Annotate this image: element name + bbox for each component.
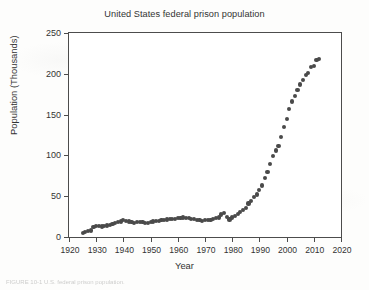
data-point xyxy=(265,170,269,174)
data-point xyxy=(271,154,275,158)
x-axis-tick: 1940 xyxy=(123,237,124,242)
figure-page: United States federal prison population … xyxy=(0,0,369,290)
plot-frame: 0501001502002501920193019401950196019701… xyxy=(68,32,342,238)
data-point xyxy=(257,188,261,192)
x-axis-tick-label: 2020 xyxy=(332,245,351,255)
figure-caption: FIGURE 10-1 U.S. federal prison populati… xyxy=(6,279,256,285)
y-axis-tick: 150 xyxy=(64,115,69,116)
data-point xyxy=(287,107,291,111)
x-axis-tick: 1970 xyxy=(205,237,206,242)
y-axis-tick: 250 xyxy=(64,33,69,34)
chart-title: United States federal prison population xyxy=(0,9,369,19)
x-axis-tick: 1960 xyxy=(178,237,179,242)
x-axis-tick: 2010 xyxy=(314,237,315,242)
data-point xyxy=(301,78,305,82)
y-axis-label: Population (Thousands) xyxy=(8,35,19,135)
x-axis-tick-label: 1960 xyxy=(169,245,188,255)
x-axis-tick-label: 2000 xyxy=(278,245,297,255)
y-axis-tick-label: 0 xyxy=(56,232,61,242)
x-axis-tick-label: 1930 xyxy=(88,245,107,255)
x-axis-tick-label: 1940 xyxy=(115,245,134,255)
data-point xyxy=(293,94,297,98)
x-axis-tick-label: 2010 xyxy=(305,245,324,255)
x-axis-tick: 1980 xyxy=(232,237,233,242)
data-point xyxy=(276,144,280,148)
data-point xyxy=(312,64,316,68)
x-axis-tick: 2020 xyxy=(341,237,342,242)
x-axis-label: Year xyxy=(0,260,369,271)
y-axis-tick-label: 250 xyxy=(46,28,61,38)
x-axis-tick-label: 1920 xyxy=(60,245,79,255)
data-point xyxy=(317,57,321,61)
y-axis-tick-label: 150 xyxy=(46,110,61,120)
y-axis-tick-label: 200 xyxy=(46,69,61,79)
data-point xyxy=(274,148,278,152)
x-axis-tick-label: 1950 xyxy=(142,245,161,255)
data-point xyxy=(295,88,299,92)
plot-area xyxy=(69,33,341,237)
x-axis-tick: 1950 xyxy=(151,237,152,242)
data-point xyxy=(290,99,294,103)
data-point xyxy=(249,199,253,203)
data-point xyxy=(268,162,272,166)
y-axis-tick-label: 100 xyxy=(46,150,61,160)
x-axis-tick: 2000 xyxy=(287,237,288,242)
x-axis-tick: 1930 xyxy=(96,237,97,242)
data-point xyxy=(282,125,286,129)
y-axis-tick: 100 xyxy=(64,155,69,156)
data-point xyxy=(260,183,264,187)
y-axis-tick-label: 50 xyxy=(51,191,61,201)
data-point xyxy=(279,135,283,139)
data-point xyxy=(255,192,259,196)
x-axis-tick: 1990 xyxy=(259,237,260,242)
x-axis-tick-label: 1980 xyxy=(224,245,243,255)
data-point xyxy=(244,206,248,210)
x-axis-tick: 1920 xyxy=(69,237,70,242)
data-point xyxy=(306,71,310,75)
data-point xyxy=(285,117,289,121)
y-axis-tick: 200 xyxy=(64,74,69,75)
data-point xyxy=(263,176,267,180)
data-point xyxy=(298,82,302,86)
x-axis-tick-label: 1990 xyxy=(251,245,270,255)
x-axis-tick-label: 1970 xyxy=(196,245,215,255)
y-axis-tick: 50 xyxy=(64,196,69,197)
